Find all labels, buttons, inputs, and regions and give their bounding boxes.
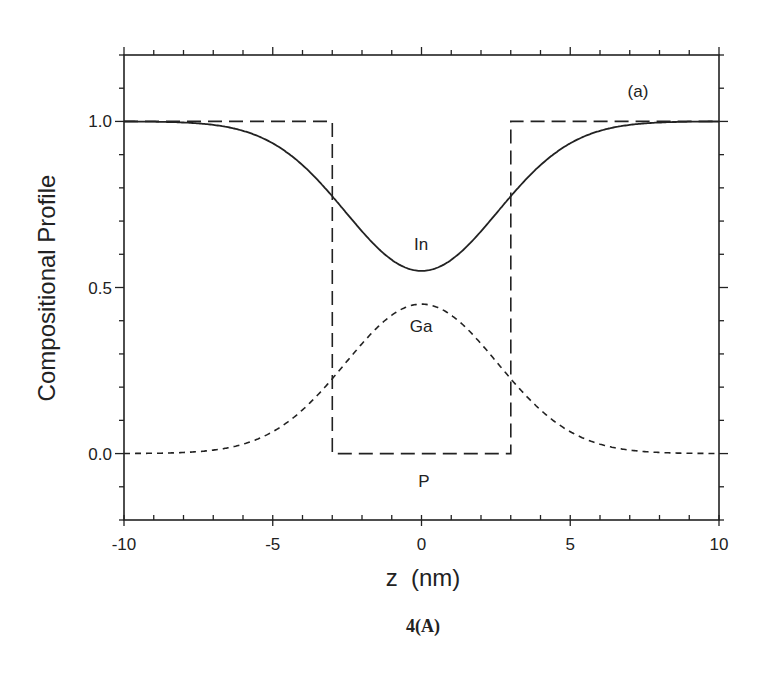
y-tick-label: 0.0 [88,445,112,464]
figure-caption: 4(A) [0,616,764,637]
x-tick-label: -5 [265,535,280,554]
x-tick-label: 5 [566,535,575,554]
series-label-in: In [414,235,428,254]
x-axis-label: z (nm) [386,564,461,591]
series-label-ga: Ga [410,317,433,336]
y-axis-label: Compositional Profile [33,175,60,402]
y-tick-label: 0.5 [88,279,112,298]
composition-chart: -10-505100.00.51.0 z (nm) Compositional … [0,0,764,691]
x-tick-label: -10 [112,535,137,554]
data-curves [124,121,719,453]
x-tick-label: 10 [710,535,729,554]
series-label-p: P [418,472,429,491]
panel-label: (a) [628,82,649,101]
x-tick-label: 0 [417,535,426,554]
p-curve [124,121,719,453]
y-tick-label: 1.0 [88,112,112,131]
